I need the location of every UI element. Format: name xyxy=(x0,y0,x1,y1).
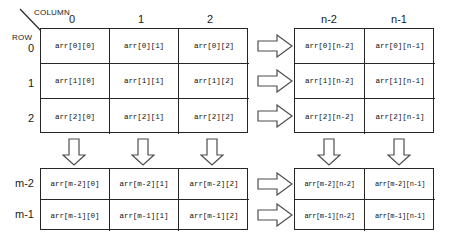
row-header-2: 2 xyxy=(2,112,34,124)
arrow-right-icon xyxy=(257,203,293,227)
arrow-right-icon xyxy=(257,172,293,196)
grid-first-rows-last-columns: arr[0][n-2] arr[0][n-1] arr[1][n-2] arr[… xyxy=(294,28,434,133)
array-cell: arr[1][n-2] xyxy=(295,64,365,99)
row-header-0: 0 xyxy=(2,42,34,54)
arrow-right-icon xyxy=(257,104,293,128)
array-cell: arr[0][n-2] xyxy=(295,29,365,64)
row-header-m-1: m-1 xyxy=(2,208,34,220)
column-header-n-1: n-1 xyxy=(379,13,419,25)
row-header-1: 1 xyxy=(2,77,34,89)
array-cell: arr[m-1][0] xyxy=(41,200,110,231)
arrow-down-icon xyxy=(131,138,155,166)
array-cell: arr[1][0] xyxy=(41,64,110,99)
array-cell: arr[0][1] xyxy=(110,29,179,64)
array-cell: arr[2][1] xyxy=(110,99,179,134)
array-cell: arr[0][n-1] xyxy=(365,29,435,64)
array-cell: arr[m-2][1] xyxy=(110,169,179,200)
grid-first-rows-first-columns: arr[0][0] arr[0][1] arr[0][2] arr[1][0] … xyxy=(40,28,248,133)
array-cell: arr[m-1][1] xyxy=(110,200,179,231)
array-cell: arr[m-1][2] xyxy=(179,200,249,231)
arrow-down-icon xyxy=(387,138,411,166)
column-header-n-2: n-2 xyxy=(309,13,349,25)
array-cell: arr[0][0] xyxy=(41,29,110,64)
array-cell: arr[2][n-2] xyxy=(295,99,365,134)
array-cell: arr[2][n-1] xyxy=(365,99,435,134)
array-cell: arr[m-1][n-2] xyxy=(295,200,365,231)
column-header-2: 2 xyxy=(190,13,230,25)
array-cell: arr[m-2][n-1] xyxy=(365,169,435,200)
grid-last-rows-last-columns: arr[m-2][n-2] arr[m-2][n-1] arr[m-1][n-2… xyxy=(294,168,434,230)
array-cell: arr[m-2][0] xyxy=(41,169,110,200)
array-cell: arr[1][n-1] xyxy=(365,64,435,99)
arrow-down-icon xyxy=(317,138,341,166)
row-header-m-2: m-2 xyxy=(2,177,34,189)
array-cell: arr[m-2][n-2] xyxy=(295,169,365,200)
array-cell: arr[m-2][2] xyxy=(179,169,249,200)
grid-last-rows-first-columns: arr[m-2][0] arr[m-2][1] arr[m-2][2] arr[… xyxy=(40,168,248,230)
array-cell: arr[1][2] xyxy=(179,64,249,99)
column-header-1: 1 xyxy=(121,13,161,25)
arrow-right-icon xyxy=(257,69,293,93)
array-cell: arr[0][2] xyxy=(179,29,249,64)
arrow-down-icon xyxy=(200,138,224,166)
array-cell: arr[2][2] xyxy=(179,99,249,134)
arrow-right-icon xyxy=(257,34,293,58)
column-header-0: 0 xyxy=(52,13,92,25)
array-cell: arr[m-1][n-1] xyxy=(365,200,435,231)
arrow-down-icon xyxy=(62,138,86,166)
array-cell: arr[1][1] xyxy=(110,64,179,99)
array-diagram: COLUMN ROW 0 1 2 n-2 n-1 0 1 2 m-2 m-1 a… xyxy=(0,0,456,242)
array-cell: arr[2][0] xyxy=(41,99,110,134)
